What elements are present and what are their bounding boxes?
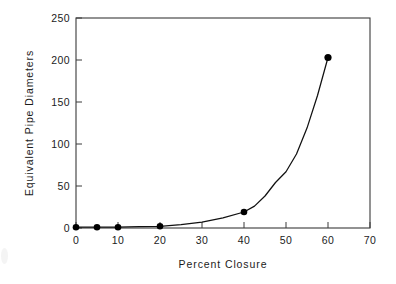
data-curve (76, 58, 328, 228)
data-point-markers (73, 54, 332, 231)
y-tick-label-50: 50 (58, 180, 70, 192)
y-tick-label-0: 0 (64, 222, 70, 234)
data-point-10 (115, 224, 122, 231)
y-tick-label-200: 200 (51, 54, 70, 66)
x-tick-label-60: 60 (322, 234, 334, 246)
plot-border (76, 18, 370, 228)
x-tick-label-50: 50 (280, 234, 292, 246)
y-axis-ticks (76, 18, 82, 228)
x-tick-label-40: 40 (238, 234, 250, 246)
y-axis-tick-labels: 250 200 150 100 50 0 (51, 12, 70, 234)
y-tick-label-100: 100 (51, 138, 70, 150)
x-tick-label-70: 70 (364, 234, 376, 246)
data-point-0 (73, 224, 80, 231)
data-point-40 (241, 209, 248, 216)
plot-frame (76, 18, 370, 228)
x-tick-label-10: 10 (112, 234, 124, 246)
data-point-20 (157, 223, 164, 230)
x-tick-label-30: 30 (196, 234, 208, 246)
x-axis-title: Percent Closure (179, 258, 268, 270)
x-axis-tick-labels: 0 10 20 30 40 50 60 70 (73, 234, 376, 246)
chart-figure: 250 200 150 100 50 0 0 10 20 30 40 50 60 (0, 0, 396, 284)
y-axis-title: Equivalent Pipe Diameters (23, 50, 35, 196)
data-point-60 (324, 54, 331, 61)
y-tick-label-250: 250 (51, 12, 70, 24)
chart-canvas: 250 200 150 100 50 0 0 10 20 30 40 50 60 (0, 0, 396, 284)
scan-artifact (1, 248, 8, 264)
x-tick-label-0: 0 (73, 234, 79, 246)
x-tick-label-20: 20 (154, 234, 166, 246)
y-tick-label-150: 150 (51, 96, 70, 108)
data-point-5 (94, 224, 101, 231)
